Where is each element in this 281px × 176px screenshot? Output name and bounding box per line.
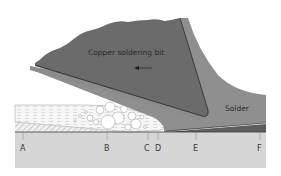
point-label-c: C [144,144,150,153]
point-label-a: A [20,144,26,153]
bit-label: Copper soldering bit [88,48,164,57]
point-label-f: F [257,144,262,153]
soldering-diagram: Copper soldering bit Solder A B C D E F [0,0,281,176]
solder-label: Solder [225,104,250,113]
base-metal [15,132,266,168]
point-label-d: D [155,144,161,153]
point-label-e: E [193,144,198,153]
point-label-b: B [104,144,110,153]
